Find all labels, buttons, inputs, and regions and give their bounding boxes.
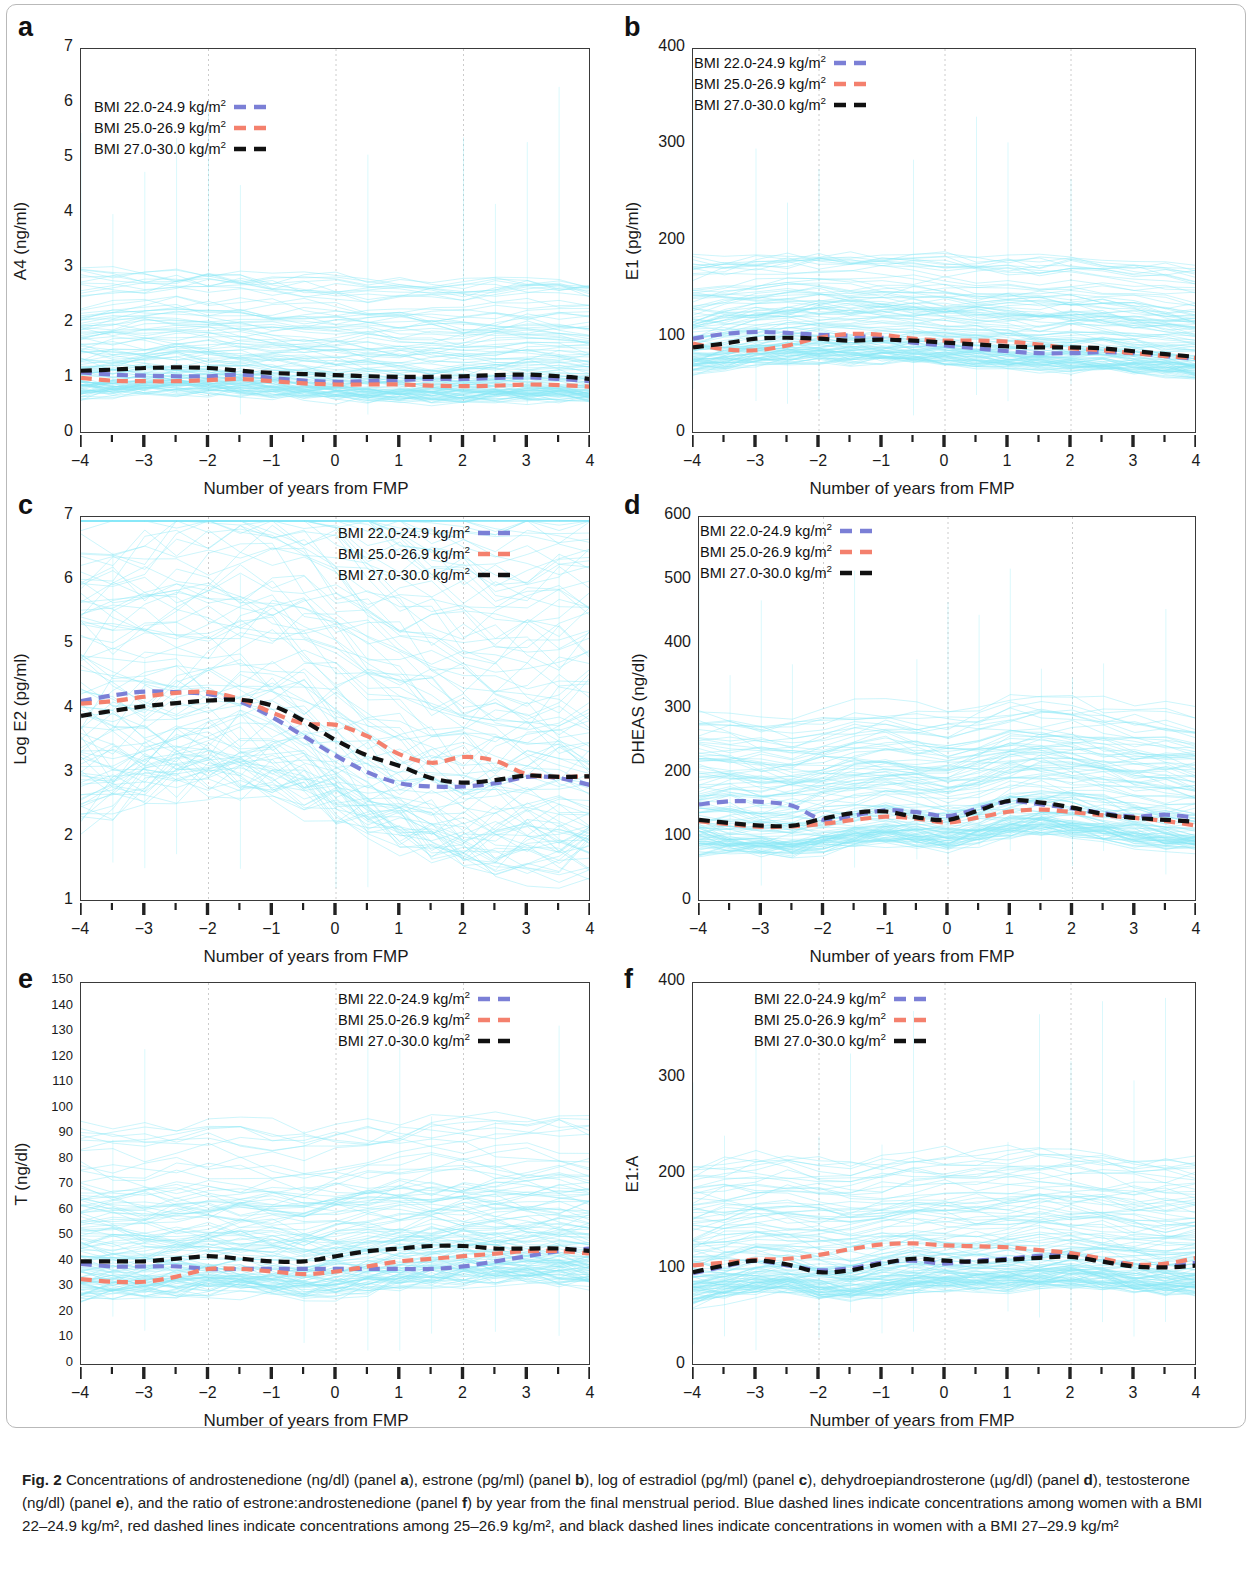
panel-b-x-tick-label: 3 [1108, 452, 1158, 470]
panel-e-y-tick-label: 150 [18, 971, 73, 986]
panel-e-x-tick-label: 3 [501, 1384, 551, 1402]
panel-e-x-tick-label: 4 [565, 1384, 615, 1402]
legend-item-red: BMI 25.0-26.9 kg/m2 [754, 1009, 931, 1030]
legend-dash-swatch-black [477, 569, 515, 581]
panel-d-x-tick-label: 3 [1109, 920, 1159, 938]
panel-b: bE1 (pg/ml)0100200300400−4−3−2−101234Num… [612, 10, 1212, 478]
panel-c: cLog E2 (pg/ml)1234567−4−3−2−101234Numbe… [6, 488, 606, 956]
legend-item-blue: BMI 22.0-24.9 kg/m2 [700, 520, 877, 541]
panel-f-y-tick-label: 100 [630, 1258, 685, 1276]
panel-d-x-tick-label: 2 [1047, 920, 1097, 938]
legend-item-red: BMI 25.0-26.9 kg/m2 [694, 73, 871, 94]
panel-c-x-tick-label: 3 [501, 920, 551, 938]
legend-item-blue: BMI 22.0-24.9 kg/m2 [338, 988, 515, 1009]
panel-c-x-tick-label: 1 [374, 920, 424, 938]
panel-c-y-tick-label: 7 [18, 505, 73, 523]
panel-a-x-tick-label: 3 [501, 452, 551, 470]
panel-c-y-tick-label: 1 [18, 890, 73, 908]
panel-b-x-tick-label: −1 [856, 452, 906, 470]
panel-d-x-axis-ticks [698, 901, 1196, 917]
panel-a-legend: BMI 22.0-24.9 kg/m2BMI 25.0-26.9 kg/m2BM… [94, 96, 271, 159]
panel-f-x-tick-label: 3 [1108, 1384, 1158, 1402]
panel-c-y-tick-label: 2 [18, 826, 73, 844]
panel-a-y-tick-label: 1 [18, 367, 73, 385]
panel-d-legend: BMI 22.0-24.9 kg/m2BMI 25.0-26.9 kg/m2BM… [700, 520, 877, 583]
panel-f-y-tick-label: 400 [630, 971, 685, 989]
panel-c-y-tick-label: 3 [18, 762, 73, 780]
legend-dash-swatch-black [839, 567, 877, 579]
panel-b-y-tick-label: 200 [630, 230, 685, 248]
legend-dash-swatch-black [233, 143, 271, 155]
legend-item-label: BMI 22.0-24.9 kg/m2 [754, 989, 886, 1009]
panel-c-y-tick-label: 4 [18, 698, 73, 716]
panel-a-x-tick-label: 4 [565, 452, 615, 470]
panel-e-x-axis-ticks [80, 1365, 590, 1381]
legend-item-black: BMI 27.0-30.0 kg/m2 [338, 564, 515, 585]
legend-item-label: BMI 22.0-24.9 kg/m2 [338, 989, 470, 1009]
panel-e-y-tick-label: 40 [18, 1252, 73, 1267]
legend-dash-swatch-red [477, 1014, 515, 1026]
legend-item-red: BMI 25.0-26.9 kg/m2 [338, 1009, 515, 1030]
panel-f-x-axis-title: Number of years from FMP [612, 1411, 1212, 1431]
legend-item-label: BMI 22.0-24.9 kg/m2 [338, 523, 470, 543]
legend-item-red: BMI 25.0-26.9 kg/m2 [700, 541, 877, 562]
panel-f-y-tick-label: 200 [630, 1163, 685, 1181]
legend-item-red: BMI 25.0-26.9 kg/m2 [338, 543, 515, 564]
figure-label: Fig. 2 [22, 1471, 62, 1488]
panel-d-x-tick-label: 1 [984, 920, 1034, 938]
legend-item-label: BMI 25.0-26.9 kg/m2 [338, 544, 470, 564]
panel-f-legend: BMI 22.0-24.9 kg/m2BMI 25.0-26.9 kg/m2BM… [754, 988, 931, 1051]
legend-dash-swatch-red [893, 1014, 931, 1026]
legend-dash-swatch-blue [833, 57, 871, 69]
legend-dash-swatch-black [893, 1035, 931, 1047]
panel-f-x-tick-label: 1 [982, 1384, 1032, 1402]
panel-d-y-tick-label: 0 [636, 890, 691, 908]
panel-b-y-tick-label: 0 [630, 422, 685, 440]
panel-d-y-tick-label: 200 [636, 762, 691, 780]
panel-e-y-tick-label: 60 [18, 1201, 73, 1216]
panel-e-x-tick-label: −4 [55, 1384, 105, 1402]
legend-item-blue: BMI 22.0-24.9 kg/m2 [338, 522, 515, 543]
figure-caption-text: Concentrations of androstenedione (ng/dl… [22, 1471, 1202, 1534]
panel-f-x-tick-label: −3 [730, 1384, 780, 1402]
panel-f-x-tick-label: −2 [793, 1384, 843, 1402]
panel-a-x-tick-label: −4 [55, 452, 105, 470]
panel-b-x-tick-label: 4 [1171, 452, 1221, 470]
legend-item-label: BMI 25.0-26.9 kg/m2 [754, 1010, 886, 1030]
legend-item-label: BMI 27.0-30.0 kg/m2 [94, 139, 226, 159]
panel-b-x-tick-label: 1 [982, 452, 1032, 470]
panel-a-x-tick-label: 1 [374, 452, 424, 470]
legend-item-black: BMI 27.0-30.0 kg/m2 [700, 562, 877, 583]
panel-b-x-tick-label: −2 [793, 452, 843, 470]
panel-e-x-tick-label: −2 [183, 1384, 233, 1402]
panel-e-y-tick-label: 120 [18, 1048, 73, 1063]
panel-a-x-tick-label: 2 [438, 452, 488, 470]
panel-e-x-tick-label: 1 [374, 1384, 424, 1402]
panel-f: fE1:A0100200300400−4−3−2−101234Number of… [612, 962, 1212, 1430]
panel-a-x-tick-label: −3 [119, 452, 169, 470]
panel-b-x-tick-label: −4 [667, 452, 717, 470]
panel-f-x-axis-ticks [692, 1365, 1196, 1381]
panel-e-y-tick-label: 50 [18, 1226, 73, 1241]
panel-c-x-tick-label: −3 [119, 920, 169, 938]
panel-e-x-tick-label: −1 [246, 1384, 296, 1402]
legend-dash-swatch-blue [839, 525, 877, 537]
panel-d-x-tick-label: −4 [673, 920, 723, 938]
panel-d-x-tick-label: −1 [860, 920, 910, 938]
legend-item-red: BMI 25.0-26.9 kg/m2 [94, 117, 271, 138]
panel-d-y-tick-label: 600 [636, 505, 691, 523]
panel-b-x-tick-label: 2 [1045, 452, 1095, 470]
panel-e-y-tick-label: 0 [18, 1354, 73, 1369]
panel-a-x-tick-label: −2 [183, 452, 233, 470]
panel-c-x-tick-label: 2 [438, 920, 488, 938]
panel-d-y-tick-label: 100 [636, 826, 691, 844]
legend-item-label: BMI 27.0-30.0 kg/m2 [694, 95, 826, 115]
panel-c-x-tick-label: 4 [565, 920, 615, 938]
legend-dash-swatch-blue [477, 527, 515, 539]
panel-a-y-tick-label: 6 [18, 92, 73, 110]
legend-dash-swatch-black [833, 99, 871, 111]
legend-item-label: BMI 27.0-30.0 kg/m2 [338, 1031, 470, 1051]
panel-d-y-tick-label: 400 [636, 633, 691, 651]
panel-d-x-tick-label: 0 [922, 920, 972, 938]
legend-item-black: BMI 27.0-30.0 kg/m2 [694, 94, 871, 115]
